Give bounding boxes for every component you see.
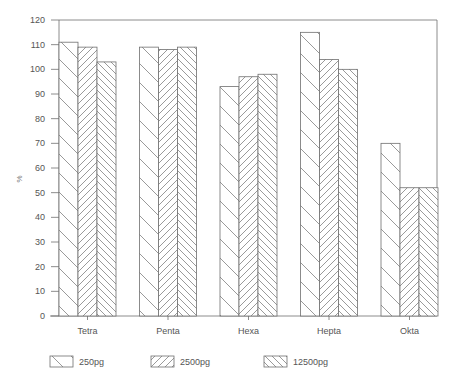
bar-penta-250pg (140, 47, 159, 316)
bar-okta-2500pg (400, 188, 419, 316)
y-tick-label: 0 (40, 311, 45, 321)
x-tick-label: Tetra (77, 326, 97, 336)
bar-tetra-250pg (59, 42, 78, 316)
legend-label: 250pg (79, 357, 104, 367)
legend-label: 12500pg (293, 357, 328, 367)
bar-hexa-2500pg (239, 77, 258, 316)
legend-item-2500pg: 2500pg (151, 356, 210, 367)
bar-chart: 0102030405060708090100110120 TetraPentaH… (0, 0, 454, 388)
bar-hepta-2500pg (320, 59, 339, 316)
y-tick-label: 120 (30, 15, 45, 25)
bar-okta-250pg (381, 143, 400, 316)
x-tick-label: Hepta (317, 326, 341, 336)
bar-tetra-2500pg (78, 47, 97, 316)
bar-okta-12500pg (419, 188, 438, 316)
legend-item-12500pg: 12500pg (264, 356, 328, 367)
legend: 250pg2500pg12500pg (50, 356, 328, 367)
y-tick-label: 90 (35, 89, 45, 99)
y-axis: 0102030405060708090100110120 (30, 15, 59, 321)
bar-penta-2500pg (159, 50, 178, 316)
y-tick-label: 10 (35, 286, 45, 296)
legend-swatch (264, 356, 287, 367)
y-tick-label: 40 (35, 212, 45, 222)
x-tick-label: Penta (156, 326, 180, 336)
bars (59, 32, 438, 316)
y-tick-label: 60 (35, 163, 45, 173)
bar-hexa-12500pg (258, 74, 277, 316)
y-tick-label: 80 (35, 114, 45, 124)
x-axis: TetraPentaHexaHeptaOkta (77, 316, 419, 336)
legend-label: 2500pg (180, 357, 210, 367)
y-axis-label: % (15, 175, 24, 182)
legend-item-250pg: 250pg (50, 356, 104, 367)
bar-hepta-250pg (301, 32, 320, 316)
y-tick-label: 50 (35, 188, 45, 198)
y-tick-label: 100 (30, 64, 45, 74)
y-tick-label: 20 (35, 262, 45, 272)
x-tick-label: Okta (400, 326, 419, 336)
legend-swatch (50, 356, 73, 367)
y-tick-label: 70 (35, 138, 45, 148)
bar-hexa-250pg (220, 87, 239, 316)
bar-tetra-12500pg (97, 62, 116, 316)
legend-swatch (151, 356, 174, 367)
bar-hepta-12500pg (339, 69, 358, 316)
x-tick-label: Hexa (238, 326, 259, 336)
y-tick-label: 30 (35, 237, 45, 247)
y-tick-label: 110 (31, 40, 45, 50)
bar-penta-12500pg (178, 47, 197, 316)
